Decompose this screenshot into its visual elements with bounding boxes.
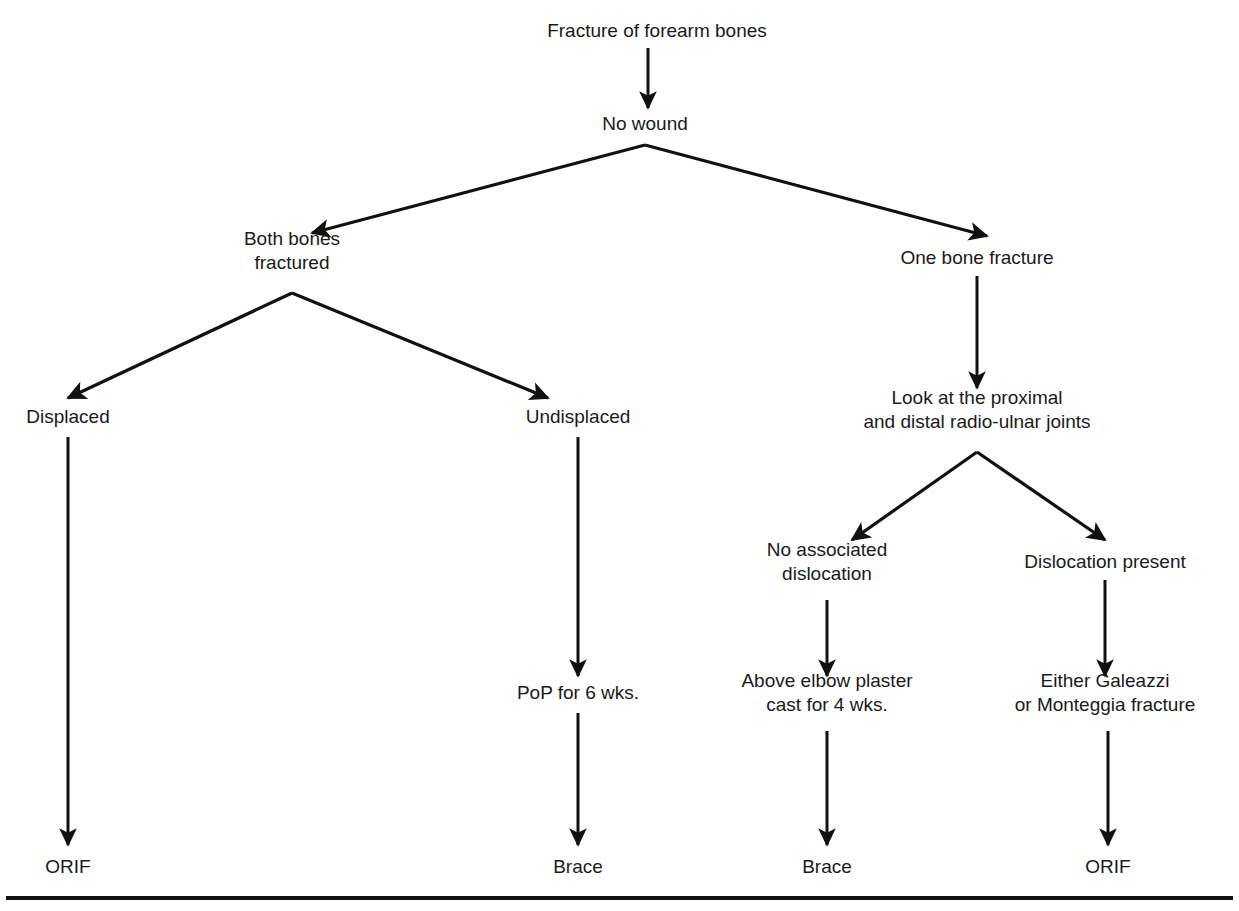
edge-no-wound-to-both-bones xyxy=(312,145,645,233)
edge-look-to-disloc xyxy=(977,452,1105,540)
node-above-elbow-line-0: Above elbow plaster xyxy=(741,670,913,691)
node-brace-right-line-0: Brace xyxy=(802,856,852,877)
node-no-wound: No wound xyxy=(602,113,688,134)
node-orif-right-line-0: ORIF xyxy=(1085,856,1130,877)
node-both-bones-line-1: fractured xyxy=(255,252,330,273)
node-dislocation-line-0: Dislocation present xyxy=(1024,551,1186,572)
node-galeazzi-line-1: or Monteggia fracture xyxy=(1015,694,1196,715)
node-displaced-line-0: Displaced xyxy=(26,406,109,427)
node-pop-6wks-line-0: PoP for 6 wks. xyxy=(517,682,639,703)
node-above-elbow: Above elbow plastercast for 4 wks. xyxy=(741,670,913,715)
node-orif-left-line-0: ORIF xyxy=(45,856,90,877)
node-both-bones-line-0: Both bones xyxy=(244,228,340,249)
edge-both-bones-to-displaced xyxy=(68,293,292,398)
edge-both-bones-to-undisp xyxy=(292,293,548,398)
edge-look-to-no-disloc xyxy=(852,452,977,540)
nodes-layer: Fracture of forearm bonesNo woundBoth bo… xyxy=(26,20,1195,877)
node-one-bone-line-0: One bone fracture xyxy=(900,247,1053,268)
node-orif-left: ORIF xyxy=(45,856,90,877)
node-look-joints-line-1: and distal radio-ulnar joints xyxy=(863,411,1090,432)
node-brace-mid-line-0: Brace xyxy=(553,856,603,877)
node-no-dislocation: No associateddislocation xyxy=(767,539,887,584)
node-brace-mid: Brace xyxy=(553,856,603,877)
node-both-bones: Both bonesfractured xyxy=(244,228,340,273)
node-root: Fracture of forearm bones xyxy=(547,20,767,41)
edges-layer xyxy=(68,48,1108,845)
node-displaced: Displaced xyxy=(26,406,109,427)
node-galeazzi: Either Galeazzior Monteggia fracture xyxy=(1015,670,1196,715)
node-no-dislocation-line-0: No associated xyxy=(767,539,887,560)
flowchart-diagram: Fracture of forearm bonesNo woundBoth bo… xyxy=(0,0,1239,911)
node-no-wound-line-0: No wound xyxy=(602,113,688,134)
node-above-elbow-line-1: cast for 4 wks. xyxy=(766,694,887,715)
node-one-bone: One bone fracture xyxy=(900,247,1053,268)
node-brace-right: Brace xyxy=(802,856,852,877)
node-orif-right: ORIF xyxy=(1085,856,1130,877)
node-look-joints: Look at the proximaland distal radio-uln… xyxy=(863,387,1090,432)
flowchart-canvas: Fracture of forearm bonesNo woundBoth bo… xyxy=(0,0,1239,911)
node-dislocation: Dislocation present xyxy=(1024,551,1186,572)
node-galeazzi-line-0: Either Galeazzi xyxy=(1041,670,1170,691)
node-undisplaced: Undisplaced xyxy=(526,406,631,427)
node-look-joints-line-0: Look at the proximal xyxy=(891,387,1062,408)
node-pop-6wks: PoP for 6 wks. xyxy=(517,682,639,703)
node-no-dislocation-line-1: dislocation xyxy=(782,563,872,584)
node-root-line-0: Fracture of forearm bones xyxy=(547,20,767,41)
edge-no-wound-to-one-bone xyxy=(645,145,987,236)
node-undisplaced-line-0: Undisplaced xyxy=(526,406,631,427)
